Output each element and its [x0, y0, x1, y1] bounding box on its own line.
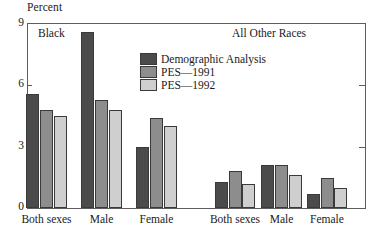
x-tick-label: Female — [140, 213, 174, 225]
bar — [109, 110, 122, 208]
bar — [81, 32, 94, 208]
bar — [54, 116, 67, 208]
y-tick-label: 9 — [2, 16, 24, 28]
chart-legend: Demographic Analysis PES—1991 PES—1992 — [140, 52, 266, 91]
legend-label: PES—1992 — [161, 79, 215, 91]
bar — [40, 110, 53, 208]
bar — [26, 94, 39, 209]
plot-area — [27, 23, 366, 209]
bar — [242, 184, 255, 209]
y-tick-label: 3 — [2, 139, 24, 151]
panel-caption-all-other-races: All Other Races — [232, 27, 306, 39]
x-tick-label: Both sexes — [210, 213, 260, 225]
bar — [289, 175, 302, 208]
bar — [229, 171, 242, 208]
bar — [136, 147, 149, 208]
bar — [307, 194, 320, 208]
legend-item: PES—1991 — [140, 65, 266, 78]
bar — [164, 126, 177, 208]
legend-swatch-icon — [140, 79, 157, 91]
legend-label: PES—1991 — [161, 66, 215, 78]
bar — [334, 188, 347, 208]
y-tick-label: 0 — [2, 200, 24, 212]
bar — [321, 178, 334, 209]
x-tick-label: Male — [90, 213, 114, 225]
legend-swatch-icon — [140, 53, 157, 65]
y-tick-label: 6 — [2, 77, 24, 89]
y-tick-mark — [27, 85, 32, 86]
bar — [275, 165, 288, 208]
legend-item: PES—1992 — [140, 78, 266, 91]
x-tick-label: Both sexes — [21, 213, 71, 225]
bar — [95, 100, 108, 208]
bar — [150, 118, 163, 208]
bar — [261, 165, 274, 208]
y-tick-mark — [359, 147, 365, 148]
x-tick-label: Female — [310, 213, 344, 225]
y-axis-title: Percent — [27, 1, 62, 13]
legend-item: Demographic Analysis — [140, 52, 266, 65]
bar-chart: Percent 9630 Black All Other Races Both … — [0, 0, 381, 240]
legend-swatch-icon — [140, 66, 157, 78]
x-tick-label: Male — [270, 213, 294, 225]
bar — [215, 182, 228, 209]
y-tick-mark — [359, 85, 365, 86]
panel-caption-black: Black — [38, 27, 65, 39]
legend-label: Demographic Analysis — [161, 53, 266, 65]
